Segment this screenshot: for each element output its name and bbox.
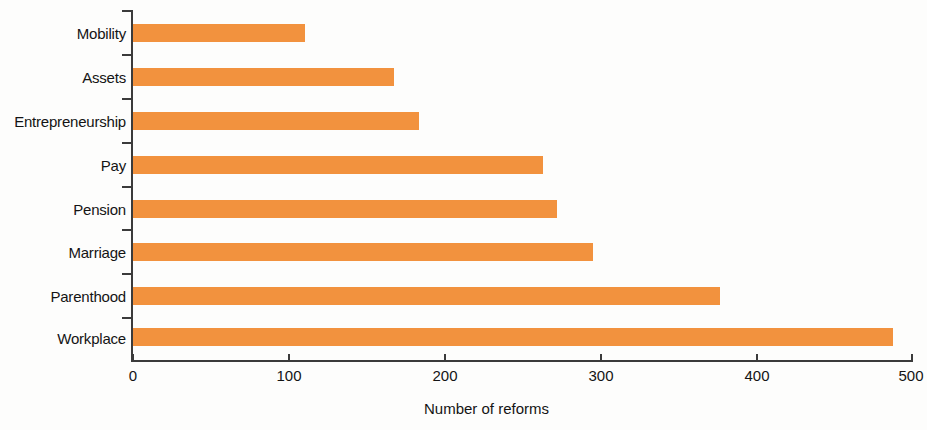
y-axis-tick (122, 142, 133, 144)
x-axis-tick-label-500: 500 (898, 368, 923, 384)
y-axis-label-entrepreneurship: Entrepreneurship (2, 114, 126, 129)
bar-assets (133, 68, 394, 86)
y-axis-label-workplace: Workplace (2, 331, 126, 346)
bar-pension (133, 200, 557, 218)
y-axis-tick (122, 98, 133, 100)
x-axis-tick-label-400: 400 (744, 368, 769, 384)
y-axis-tick (122, 273, 133, 275)
y-axis-tick (122, 229, 133, 231)
bar-mobility (133, 24, 305, 42)
x-axis-tick-label-0: 0 (129, 368, 137, 384)
x-axis-title-text: Number of reforms (424, 400, 549, 417)
y-axis-tick (122, 186, 133, 188)
plot-area (133, 10, 913, 361)
y-axis-label-pension: Pension (2, 202, 126, 217)
y-axis-label-mobility: Mobility (2, 26, 126, 41)
y-axis-tick (122, 54, 133, 56)
y-axis-label-marriage: Marriage (2, 245, 126, 260)
bar-pay (133, 156, 543, 174)
bar-parenthood (133, 287, 720, 305)
bar-marriage (133, 243, 593, 261)
bar-chart: Mobility Assets Entrepreneurship Pay Pen… (0, 0, 927, 430)
y-axis-tick (122, 10, 133, 12)
bar-workplace (133, 328, 893, 346)
x-axis-tick-label-200: 200 (432, 368, 457, 384)
x-axis-tick-label-300: 300 (588, 368, 613, 384)
y-axis-label-pay: Pay (2, 158, 126, 173)
y-axis-tick (122, 317, 133, 319)
y-axis-label-assets: Assets (2, 70, 126, 85)
x-axis-tick-label-100: 100 (276, 368, 301, 384)
bar-entrepreneurship (133, 112, 419, 130)
x-axis-title: Number of reforms (0, 400, 927, 417)
y-axis-category-labels: Mobility Assets Entrepreneurship Pay Pen… (0, 0, 126, 430)
y-axis-label-parenthood: Parenthood (2, 289, 126, 304)
